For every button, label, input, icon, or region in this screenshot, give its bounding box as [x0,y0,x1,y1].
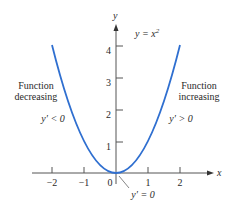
x-axis-arrow-icon [207,171,214,176]
x-tick-label: 1 [146,177,151,188]
y-tick-label: 2 [106,109,111,120]
x-tick-label: 0 [108,177,113,188]
y-tick-label: 3 [106,77,111,88]
y-axis-arrow-icon [114,24,119,31]
function-label: y = x2 [134,27,160,39]
left-derivative-label: y′ < 0 [40,113,64,124]
vertex-derivative-label: y′ = 0 [130,189,154,200]
x-tick-label: −1 [79,177,90,188]
y-ticks [116,46,123,142]
leader-line [119,176,129,188]
right-annotation-line2: increasing [178,91,219,102]
left-annotation-line1: Function [18,80,54,91]
y-axis-label: y [112,10,118,21]
parabola-diagram: −2 −1 0 1 2 1 2 3 4 x y y = x2 Function … [0,0,231,213]
y-tick-label: 1 [106,141,111,152]
right-derivative-label: y′ > 0 [168,113,192,124]
x-axis-label: x [216,167,222,178]
y-tick-label: 4 [106,45,111,56]
x-tick-label: 2 [178,177,183,188]
right-annotation-line1: Function [181,80,217,91]
x-tick-label: −2 [47,177,58,188]
left-annotation-line2: decreasing [15,91,58,102]
